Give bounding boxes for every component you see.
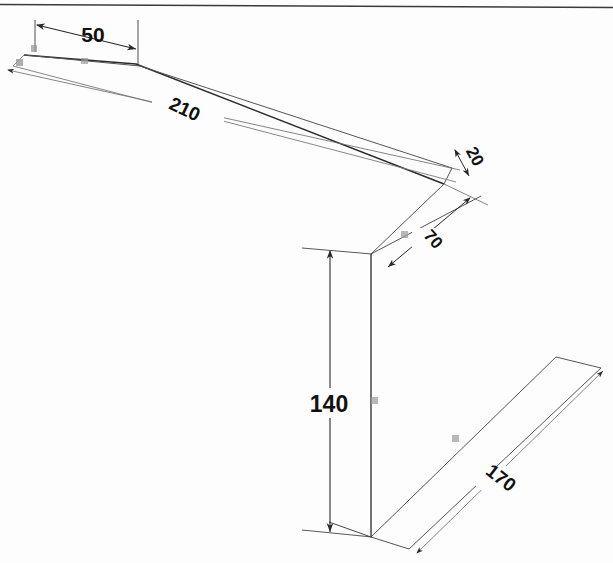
dimension-170: 170 [417,371,603,553]
drawing-page: 50 210 20 70 140 [0,0,613,563]
dimension-210: 210 [8,70,460,170]
dimension-140: 140 [302,248,372,537]
annotation-mark-b [16,59,23,66]
dimension-20: 20 [455,144,488,176]
annotation-marks [16,45,459,442]
dimension-label-140: 140 [310,391,348,417]
annotation-mark-d [401,231,408,238]
dimension-70: 70 [388,184,488,267]
dimension-label-50: 50 [81,23,104,46]
engineering-drawing-canvas: 50 210 20 70 140 [0,0,613,563]
page-top-rule [0,5,613,8]
annotation-mark-e [371,397,378,404]
base-plate [329,357,601,549]
dimension-label-170: 170 [482,460,520,496]
dim-line-210 [8,70,460,170]
annotation-mark-f [452,435,459,442]
ext-line-140-top [302,248,372,254]
dimension-label-20: 20 [462,144,488,170]
annotation-mark-c [81,58,88,64]
annotation-mark-a [31,45,37,52]
solid-body-outline [24,55,452,184]
dim-line-170 [417,371,603,553]
